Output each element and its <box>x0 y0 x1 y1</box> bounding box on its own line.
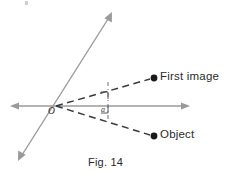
object-label: Object <box>160 129 194 141</box>
inclined-top-arrowhead <box>104 12 112 22</box>
figure-caption: Fig. 14 <box>88 157 123 168</box>
first-image-dot <box>151 75 158 82</box>
figure-container: First image Object O a Fig. 14 <box>0 0 229 182</box>
inclined-mirror-shaft <box>22 19 108 155</box>
horizontal-mirror-line <box>10 103 190 110</box>
origin-point-label: O <box>48 107 55 117</box>
horizontal-right-arrowhead <box>181 103 190 110</box>
object-dot <box>151 133 158 140</box>
optics-diagram-svg <box>0 0 229 182</box>
angle-label: a <box>101 106 105 114</box>
first-image-label: First image <box>160 71 219 83</box>
inclined-mirror-line <box>18 12 112 161</box>
horizontal-left-arrowhead <box>10 103 19 110</box>
